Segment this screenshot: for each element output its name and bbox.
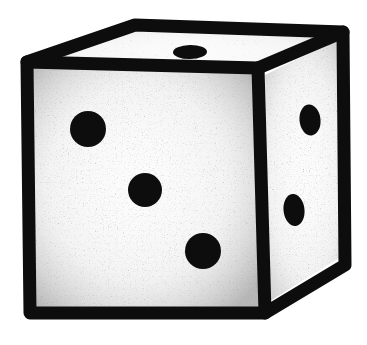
front-pip-top-left (70, 111, 106, 147)
dice-figure (0, 0, 367, 345)
dice-illustration-canvas: Dice six-sided die shown in three-quarte… (0, 0, 367, 345)
front-pip-center (128, 173, 162, 207)
front-pip-bottom-right (185, 233, 221, 269)
edge-front-right-vertical (258, 68, 265, 313)
front-face (25, 55, 270, 320)
edge-front-top (27, 62, 258, 68)
